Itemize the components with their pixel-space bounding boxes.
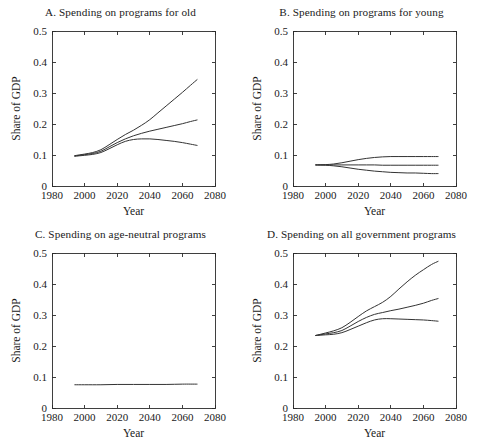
- y-tick-label: 0.4: [274, 278, 288, 290]
- x-tick-label: 2040: [380, 411, 403, 423]
- y-tick-label: 0: [283, 180, 289, 192]
- y-tick-label: 0.3: [33, 309, 47, 321]
- y-axis-title: Share of GDP: [10, 76, 22, 141]
- x-tick-label: 2020: [106, 411, 129, 423]
- y-tick-label: 0.2: [33, 118, 47, 130]
- chart-panel-b: B. Spending on programs for young 198020…: [241, 0, 482, 222]
- x-tick-label: 2040: [380, 189, 403, 201]
- series-line-age-neutral: [75, 384, 197, 385]
- y-tick-label: 0.4: [33, 56, 47, 68]
- x-tick-label: 2060: [171, 189, 194, 201]
- series-line-middle: [316, 299, 438, 336]
- y-tick-label: 0.3: [274, 87, 288, 99]
- chart-panel-c: C. Spending on age-neutral programs 1980…: [0, 222, 241, 444]
- y-tick-label: 0.3: [274, 309, 288, 321]
- y-tick-label: 0.1: [33, 149, 47, 161]
- x-axis-title: Year: [123, 427, 144, 439]
- x-tick-label: 2060: [171, 411, 194, 423]
- x-tick-label: 2060: [412, 189, 435, 201]
- x-tick-label: 2000: [74, 189, 97, 201]
- x-tick-label: 2040: [139, 411, 162, 423]
- y-tick-label: 0: [42, 180, 48, 192]
- x-tick-label: 2080: [204, 411, 227, 423]
- y-tick-label: 0.4: [274, 56, 288, 68]
- y-tick-label: 0.5: [274, 247, 288, 259]
- y-tick-label: 0.5: [33, 247, 47, 259]
- y-tick-label: 0.2: [274, 118, 288, 130]
- y-tick-label: 0.2: [33, 340, 47, 352]
- series-line-middle: [75, 120, 197, 156]
- x-tick-label: 2020: [347, 411, 370, 423]
- chart-panel-a: A. Spending on programs for old 19802000…: [0, 0, 241, 222]
- x-tick-label: 2080: [445, 411, 468, 423]
- y-axis-title: Share of GDP: [251, 76, 263, 141]
- y-tick-label: 0.2: [274, 340, 288, 352]
- y-tick-label: 0.4: [33, 278, 47, 290]
- chart-panel-d: D. Spending on all government programs 1…: [241, 222, 482, 444]
- y-tick-label: 0.1: [274, 149, 288, 161]
- panel-a-plot: 19802000202020402060208000.10.20.30.40.5…: [0, 0, 241, 222]
- y-tick-label: 0.1: [274, 371, 288, 383]
- x-tick-label: 2060: [412, 411, 435, 423]
- y-axis-title: Share of GDP: [10, 298, 22, 363]
- x-tick-label: 2000: [74, 411, 97, 423]
- x-tick-label: 2040: [139, 189, 162, 201]
- series-line-low: [316, 165, 438, 174]
- panel-b-plot: 19802000202020402060208000.10.20.30.40.5…: [241, 0, 482, 222]
- y-axis-title: Share of GDP: [251, 298, 263, 363]
- figure-multi-panel-chart: A. Spending on programs for old 19802000…: [0, 0, 483, 444]
- x-tick-label: 2000: [315, 411, 338, 423]
- x-tick-label: 2080: [445, 189, 468, 201]
- y-tick-label: 0.5: [33, 25, 47, 37]
- y-tick-label: 0.3: [33, 87, 47, 99]
- x-axis-title: Year: [364, 427, 385, 439]
- x-axis-title: Year: [123, 205, 144, 217]
- series-line-high: [316, 261, 438, 335]
- panel-d-plot: 19802000202020402060208000.10.20.30.40.5…: [241, 222, 482, 444]
- y-tick-label: 0.5: [274, 25, 288, 37]
- x-tick-label: 2000: [315, 189, 338, 201]
- x-tick-label: 2080: [204, 189, 227, 201]
- y-tick-label: 0: [42, 402, 48, 414]
- y-tick-label: 0: [283, 402, 289, 414]
- series-line-high: [316, 157, 438, 165]
- x-tick-label: 2020: [106, 189, 129, 201]
- y-tick-label: 0.1: [33, 371, 47, 383]
- x-tick-label: 2020: [347, 189, 370, 201]
- series-line-high: [75, 80, 197, 156]
- plot-frame: [52, 31, 215, 186]
- panel-c-plot: 19802000202020402060208000.10.20.30.40.5…: [0, 222, 241, 444]
- x-axis-title: Year: [364, 205, 385, 217]
- plot-frame: [293, 253, 456, 408]
- plot-frame: [293, 31, 456, 186]
